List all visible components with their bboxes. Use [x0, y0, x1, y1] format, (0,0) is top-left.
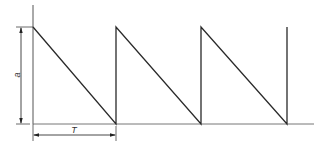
period-dimension: T [33, 124, 116, 141]
arrow-up-icon [19, 27, 22, 33]
arrow-down-icon [19, 118, 22, 124]
arrow-left-icon [33, 133, 39, 136]
amplitude-dimension: a [12, 27, 34, 124]
arrow-right-icon [110, 133, 116, 136]
sawtooth-diagram: a T [0, 0, 324, 148]
sawtooth-waveform [33, 27, 287, 124]
amplitude-label: a [12, 72, 22, 77]
period-label: T [71, 125, 78, 135]
